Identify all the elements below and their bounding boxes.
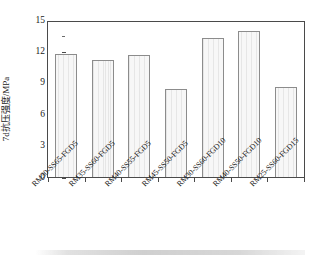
y-tick-label-15: 15 (25, 16, 45, 26)
x-tick-2 (121, 178, 122, 182)
x-tick-5 (231, 178, 232, 182)
y-tick-label-3: 3 (25, 141, 45, 151)
x-tick-3 (158, 178, 159, 182)
caption-remnant (35, 250, 305, 255)
y-axis-title: 7d抗压强度/MPa (0, 54, 12, 164)
x-tick-4 (194, 178, 195, 182)
y-tick-label-12: 12 (25, 47, 45, 57)
y-tick-major-0 (62, 178, 66, 179)
x-tick-0 (48, 178, 49, 182)
y-tick-label-9: 9 (25, 78, 45, 88)
x-tick-1 (85, 178, 86, 182)
x-tick-6 (267, 178, 268, 182)
x-tick-7 (304, 178, 305, 182)
y-axis-ticks: 15 12 9 6 3 0 (20, 0, 45, 259)
chart-figure: 7d抗压强度/MPa 15 12 9 6 3 0 RM30-SS65-FGD5 … (0, 0, 321, 259)
y-tick-label-6: 6 (25, 110, 45, 120)
